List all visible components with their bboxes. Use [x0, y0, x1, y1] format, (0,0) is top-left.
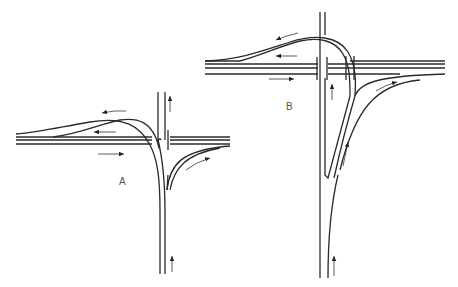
arrow-icon [102, 111, 126, 113]
diagram-b [205, 12, 445, 278]
arrow-icon [186, 158, 210, 170]
diagram-label-b: B [286, 101, 293, 112]
interchange-diagram [0, 0, 458, 287]
arrow-icon [276, 33, 298, 40]
diagram-b-arrows [269, 33, 397, 276]
diagram-b-vertical-road [320, 12, 338, 278]
diagram-b-loop-ramp [205, 37, 445, 178]
diagram-a-main-road [16, 130, 230, 150]
diagram-label-a: A [119, 176, 126, 187]
